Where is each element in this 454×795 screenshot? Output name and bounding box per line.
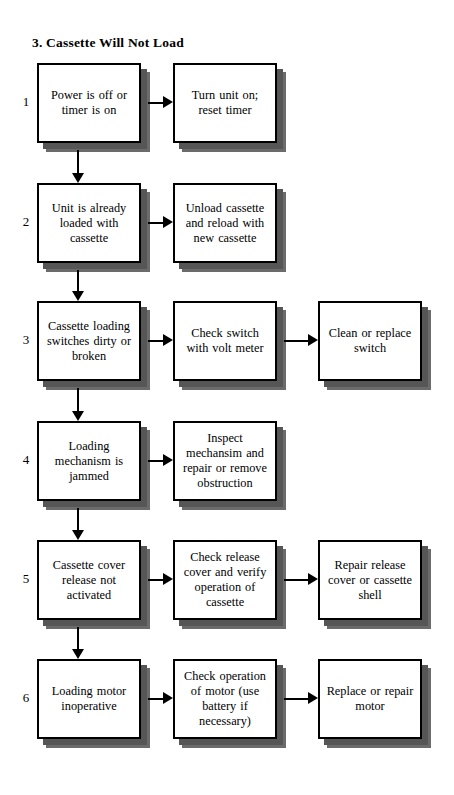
action-box-2-label: Unload cassette and reload with new cass… (175, 201, 275, 246)
action-box-5[interactable]: Check release cover and verify operation… (173, 540, 277, 620)
arrowhead-down-1-to-2 (72, 173, 84, 183)
row-number-1: 1 (18, 94, 34, 110)
arrowhead-down-5-to-6 (72, 649, 84, 659)
problem-box-6[interactable]: Loading motor inoperative (37, 659, 141, 739)
flowchart-canvas: 3. Cassette Will Not Load 1Power is off … (0, 0, 454, 795)
action-box-6[interactable]: Check operation of motor (use battery if… (173, 659, 277, 739)
arrow-problem-to-action-3 (148, 340, 164, 342)
row-number-2: 2 (18, 214, 34, 230)
arrow-problem-to-action-5 (148, 579, 164, 581)
arrow-problem-to-action-6 (148, 698, 164, 700)
action-box-3-label: Check switch with volt meter (175, 326, 275, 356)
followup-box-3[interactable]: Clean or replace switch (318, 301, 422, 381)
problem-box-2[interactable]: Unit is already loaded with cassette (37, 183, 141, 263)
arrow-action-to-followup-5 (284, 579, 309, 581)
arrow-problem-to-action-4 (148, 460, 164, 462)
action-box-4[interactable]: Inspect mechansim and repair or remove o… (173, 421, 277, 501)
followup-box-6[interactable]: Replace or repair motor (318, 659, 422, 739)
followup-box-3-label: Clean or replace switch (320, 326, 420, 356)
problem-box-2-label: Unit is already loaded with cassette (39, 201, 139, 246)
action-box-3[interactable]: Check switch with volt meter (173, 301, 277, 381)
action-box-1[interactable]: Turn unit on; reset timer (173, 63, 277, 143)
problem-box-5-label: Cassette cover release not activated (39, 558, 139, 603)
action-box-5-label: Check release cover and verify operation… (175, 550, 275, 610)
arrowhead-down-3-to-4 (72, 411, 84, 421)
action-box-2[interactable]: Unload cassette and reload with new cass… (173, 183, 277, 263)
problem-box-6-label: Loading motor inoperative (39, 684, 139, 714)
arrowhead-down-2-to-3 (72, 291, 84, 301)
row-number-4: 4 (18, 452, 34, 468)
arrow-down-3-to-4 (77, 388, 79, 412)
problem-box-5[interactable]: Cassette cover release not activated (37, 540, 141, 620)
action-box-1-label: Turn unit on; reset timer (175, 88, 275, 118)
arrowhead-problem-to-action-3 (163, 334, 173, 346)
arrow-action-to-followup-3 (284, 340, 309, 342)
action-box-4-label: Inspect mechansim and repair or remove o… (175, 431, 275, 491)
action-box-6-label: Check operation of motor (use battery if… (175, 669, 275, 729)
arrowhead-action-to-followup-5 (308, 573, 318, 585)
arrow-problem-to-action-1 (148, 102, 164, 104)
arrow-down-4-to-5 (77, 508, 79, 531)
problem-box-4[interactable]: Loading mechanism is jammed (37, 421, 141, 501)
arrowhead-action-to-followup-3 (308, 334, 318, 346)
problem-box-1[interactable]: Power is off or timer is on (37, 63, 141, 143)
arrowhead-problem-to-action-6 (163, 692, 173, 704)
arrowhead-action-to-followup-6 (308, 692, 318, 704)
arrow-down-5-to-6 (77, 627, 79, 650)
followup-box-6-label: Replace or repair motor (320, 684, 420, 714)
arrow-down-2-to-3 (77, 270, 79, 292)
arrowhead-problem-to-action-4 (163, 454, 173, 466)
arrow-down-1-to-2 (77, 150, 79, 174)
row-number-6: 6 (18, 690, 34, 706)
followup-box-5[interactable]: Repair release cover or cassette shell (318, 540, 422, 620)
followup-box-5-label: Repair release cover or cassette shell (320, 558, 420, 603)
arrowhead-problem-to-action-5 (163, 573, 173, 585)
row-number-3: 3 (18, 332, 34, 348)
arrow-action-to-followup-6 (284, 698, 309, 700)
arrow-problem-to-action-2 (148, 222, 164, 224)
arrowhead-down-4-to-5 (72, 530, 84, 540)
problem-box-1-label: Power is off or timer is on (39, 88, 139, 118)
row-number-5: 5 (18, 571, 34, 587)
arrowhead-problem-to-action-1 (163, 96, 173, 108)
problem-box-3-label: Cassette loading switches dirty or broke… (39, 319, 139, 364)
problem-box-4-label: Loading mechanism is jammed (39, 439, 139, 484)
arrowhead-problem-to-action-2 (163, 216, 173, 228)
page-title: 3. Cassette Will Not Load (32, 35, 184, 51)
problem-box-3[interactable]: Cassette loading switches dirty or broke… (37, 301, 141, 381)
